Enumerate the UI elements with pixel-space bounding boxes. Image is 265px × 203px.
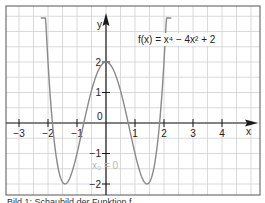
origin-label: 0 <box>97 111 103 122</box>
y-tick-label: 1 <box>95 87 101 98</box>
y-tick-label: −1 <box>90 148 102 159</box>
annotation-x0: x₀ = 0 <box>92 160 119 171</box>
function-plot: −3−2−11234−2−112 x y 0 f(x) = x⁴ − 4x² +… <box>0 0 265 203</box>
function-formula: f(x) = x⁴ − 4x² + 2 <box>138 34 216 45</box>
x-tick-label: 1 <box>132 128 138 139</box>
x-tick-label: 2 <box>161 128 167 139</box>
x-tick-label: 3 <box>190 128 196 139</box>
figure-caption: Bild 1: Schaubild der Funktion f <box>7 197 132 203</box>
x-tick-label: −3 <box>13 128 25 139</box>
y-tick-label: −2 <box>90 179 102 190</box>
x-tick-label: 4 <box>219 128 225 139</box>
y-axis-label: y <box>97 19 102 30</box>
x-axis-label: x <box>246 126 251 137</box>
